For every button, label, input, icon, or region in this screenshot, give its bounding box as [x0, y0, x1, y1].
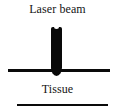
tissue-surface-line: [8, 69, 110, 72]
tissue-label: Tissue: [0, 82, 115, 96]
laser-tissue-diagram: Laser beam Tissue: [0, 0, 115, 112]
lower-boundary-line: [17, 104, 108, 106]
laser-beam-label: Laser beam: [0, 2, 115, 16]
